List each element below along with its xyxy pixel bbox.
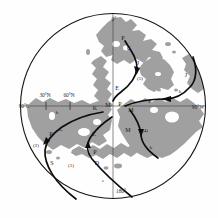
track-label-c-left: C [59,126,63,132]
bay-gap [150,107,158,113]
caspian-gap [49,112,55,120]
label-180deg: 180° [116,188,126,194]
island-top-right-2 [172,51,176,54]
track-label-e-lower: E [92,131,96,137]
track-label-num1: (1) [68,163,74,168]
island-aleutian [114,164,122,169]
island-kuril [104,166,109,170]
track-label-m-center-right: M [128,107,134,113]
island-left-1 [46,150,52,154]
island-britain [86,49,90,55]
island-arctic-4 [174,88,178,91]
graticule [21,14,206,199]
label-0deg: 0° [112,16,117,22]
track-label-num5: (5) [137,76,143,81]
track-label-k-right: k [179,89,182,94]
label-90w: 90°W [192,104,204,110]
landmass-europe [96,17,163,64]
track-label-c-top: C [127,45,131,51]
track-label-num4: (4) [142,128,148,133]
hudson-bay-gap [165,112,179,123]
track-label-j-top: J [137,60,140,66]
figure-container: 0° 180° 90°E 90°W 30°N 60°N P C J (5) E … [0,0,218,218]
track-label-m-center-left: M [105,102,111,108]
track-label-d: D [95,160,100,166]
inland-sea-gap-2 [93,119,101,125]
track-label-e-bottom: e [102,178,105,183]
track-label-k-center: K [93,105,98,111]
island-arctic-1 [149,82,154,86]
label-90e: 90°E [19,103,30,109]
label-30n: 30°N [39,92,50,98]
inland-sea-gap [78,128,90,136]
island-arctic-3 [166,84,171,88]
island-top-right-1 [165,42,171,46]
track-label-e-center: E [115,85,119,91]
label-60n: 60°N [63,92,74,98]
island-left-2 [56,157,60,160]
track-label-num2: (2) [33,143,39,148]
island-arctic-2 [157,88,161,91]
track-label-m-lower: M [125,127,131,133]
track-label-s: S [50,160,53,166]
greenland-fjord-gap [155,72,161,76]
polar-map: 0° 180° 90°E 90°W 30°N 60°N P C J (5) E … [0,0,218,218]
